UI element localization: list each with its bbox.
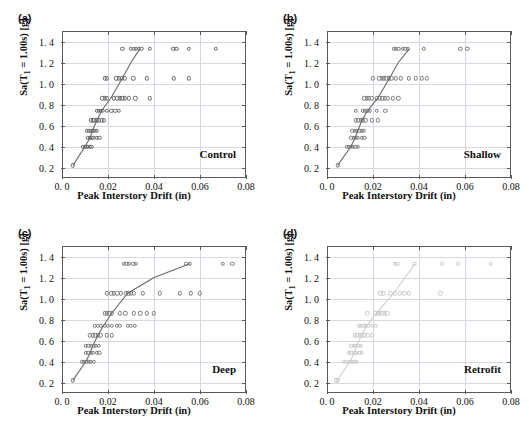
y-axis-label-a: Sa(T1 = 1.00s) [g]: [18, 0, 32, 122]
x-tick: [246, 175, 247, 179]
y-tick-label: 0. 6: [304, 335, 319, 346]
x-tick: [246, 390, 247, 394]
y-tick-label: 1. 2: [39, 272, 54, 283]
plot-area-c: 0. 00.020.040.060.080. 20. 40. 60. 81. 0…: [62, 246, 246, 393]
panel-b: (b) Sa(T1 = 1.00s) [g] 0. 00.020.040.060…: [265, 0, 529, 214]
panel-d: (d) Sa(T1 = 1.00s) [g] 0. 00.020.040.060…: [265, 215, 529, 429]
y-tick-label: 0. 8: [304, 314, 319, 325]
y-tick-label: 0. 2: [304, 377, 319, 388]
x-axis-label-a: Peak Interstory Drift (in): [20, 190, 248, 201]
y-tick-label: 1. 4: [39, 251, 54, 262]
x-tick-top: [246, 246, 247, 250]
x-axis-label-d: Peak Interstory Drift (in): [285, 405, 513, 416]
y-tick-label: 1. 0: [304, 293, 319, 304]
y-tick-label: 1. 0: [39, 78, 54, 89]
ida-figure: (a) Sa(T1 = 1.00s) [g] 0. 00.020.040.060…: [0, 0, 529, 429]
y-tick-label: 0. 4: [304, 356, 319, 367]
plot-area-b: 0. 00.020.040.060.080. 20. 40. 60. 81. 0…: [327, 31, 511, 178]
x-tick: [511, 390, 512, 394]
x-tick-top: [246, 31, 247, 35]
y-tick-label: 0. 4: [39, 141, 54, 152]
y-tick-label: 0. 4: [39, 356, 54, 367]
y-tick-label: 0. 6: [304, 120, 319, 131]
y-tick-label: 1. 0: [304, 78, 319, 89]
case-label-b: Shallow: [464, 148, 501, 160]
case-label-a: Control: [200, 148, 236, 160]
case-label-d: Retrofit: [464, 363, 501, 375]
x-tick: [511, 175, 512, 179]
x-tick-top: [511, 246, 512, 250]
y-tick-label: 0. 6: [39, 120, 54, 131]
y-tick-label: 0. 6: [39, 335, 54, 346]
y-tick-label: 0. 2: [39, 377, 54, 388]
x-axis-label-c: Peak Interstory Drift (in): [20, 405, 248, 416]
y-tick-label: 1. 0: [39, 293, 54, 304]
y-axis-label-d: Sa(T1 = 1.00s) [g]: [283, 207, 297, 337]
panel-a: (a) Sa(T1 = 1.00s) [g] 0. 00.020.040.060…: [0, 0, 264, 214]
y-tick-label: 0. 2: [39, 162, 54, 173]
y-axis-label-b: Sa(T1 = 1.00s) [g]: [283, 0, 297, 122]
y-tick-label: 1. 4: [304, 36, 319, 47]
y-axis-label-c: Sa(T1 = 1.00s) [g]: [18, 207, 32, 337]
y-tick-label: 0. 8: [304, 99, 319, 110]
y-tick-label: 1. 2: [304, 272, 319, 283]
x-tick-top: [511, 31, 512, 35]
y-tick-label: 0. 8: [39, 314, 54, 325]
plot-area-a: 0. 00.020.040.060.080. 20. 40. 60. 81. 0…: [62, 31, 246, 178]
case-label-c: Deep: [212, 363, 236, 375]
y-tick-label: 1. 4: [39, 36, 54, 47]
y-tick-label: 1. 2: [304, 57, 319, 68]
y-tick-label: 0. 8: [39, 99, 54, 110]
y-tick-label: 0. 4: [304, 141, 319, 152]
y-tick-label: 0. 2: [304, 162, 319, 173]
x-axis-label-b: Peak Interstory Drift (in): [285, 190, 513, 201]
plot-area-d: 0. 00.020.040.060.080. 20. 40. 60. 81. 0…: [327, 246, 511, 393]
y-tick-label: 1. 2: [39, 57, 54, 68]
y-tick-label: 1. 4: [304, 251, 319, 262]
panel-c: (c) Sa(T1 = 1.00s) [g] 0. 00.020.040.060…: [0, 215, 264, 429]
